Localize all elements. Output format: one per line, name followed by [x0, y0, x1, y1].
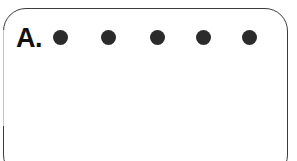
- dot-marker-2: [101, 30, 116, 45]
- dot-marker-5: [242, 30, 257, 45]
- figure-canvas: A.: [0, 0, 297, 161]
- dot-marker-3: [150, 30, 165, 45]
- dot-marker-1: [53, 30, 68, 45]
- panel-label-a: A.: [16, 23, 56, 53]
- panel-a-content-row: A.: [0, 23, 297, 53]
- dot-marker-4: [196, 30, 211, 45]
